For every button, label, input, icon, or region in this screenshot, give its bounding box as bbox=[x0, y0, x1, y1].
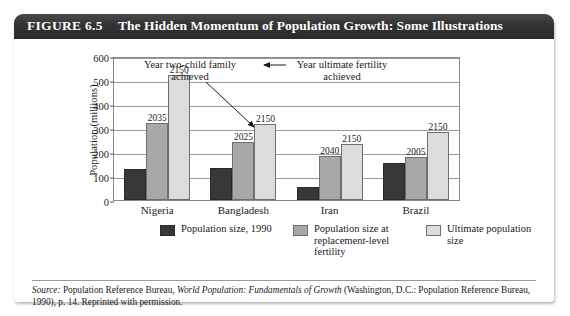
annotation-ultimate-fertility: Year ultimate fertility achieved bbox=[286, 59, 398, 83]
legend-swatch bbox=[293, 225, 308, 236]
bar[interactable]: 2035 bbox=[146, 123, 168, 200]
x-axis-label: Brazil bbox=[402, 204, 429, 216]
bar[interactable]: 2150 bbox=[341, 144, 363, 200]
legend-swatch bbox=[426, 225, 441, 236]
source-text-a: Population Reference Bureau, bbox=[61, 285, 177, 295]
x-axis-label: Bangladesh bbox=[218, 204, 269, 216]
bar-value-label: 2040 bbox=[320, 146, 339, 156]
bar-value-label: 2150 bbox=[256, 114, 275, 124]
figure-title: The Hidden Momentum of Population Growth… bbox=[118, 18, 503, 34]
y-tick-label: 0 bbox=[104, 197, 109, 208]
legend-label: Ultimate population size bbox=[447, 223, 539, 246]
bar[interactable] bbox=[124, 169, 146, 200]
source-italic-title: World Population: Fundamentals of Growth bbox=[177, 285, 342, 295]
bar-value-label: 2150 bbox=[342, 134, 361, 144]
bar[interactable]: 2150 bbox=[427, 132, 449, 200]
bar-value-label: 2150 bbox=[428, 122, 447, 132]
bar-value-label: 2035 bbox=[148, 113, 167, 123]
annotation-two-child-family: Year two-child family achieved bbox=[128, 59, 252, 83]
chart-y-axis-label: Population (millions) bbox=[88, 58, 104, 202]
figure-body: 0100200300400500600 Population (millions… bbox=[14, 39, 554, 302]
legend-item[interactable]: Population size at replacement-level fer… bbox=[293, 223, 406, 258]
bar-value-label: 2005 bbox=[406, 147, 425, 157]
figure-header: FIGURE 6.5 The Hidden Momentum of Popula… bbox=[14, 14, 554, 39]
y-tick-mark bbox=[110, 202, 114, 203]
bar[interactable]: 2040 bbox=[319, 156, 341, 200]
legend-label: Population size, 1990 bbox=[181, 223, 273, 235]
bar[interactable] bbox=[210, 168, 232, 200]
legend-item[interactable]: Population size, 1990 bbox=[160, 223, 273, 258]
bar[interactable] bbox=[297, 187, 319, 200]
chart-legend: Population size, 1990Population size at … bbox=[160, 223, 490, 258]
legend-label: Population size at replacement-level fer… bbox=[314, 223, 406, 258]
legend-item[interactable]: Ultimate population size bbox=[426, 223, 539, 258]
x-axis-label: Iran bbox=[321, 204, 339, 216]
bar[interactable]: 2150 bbox=[254, 124, 276, 200]
bar[interactable]: 2150 bbox=[168, 75, 190, 200]
source-note: Source: Population Reference Bureau, Wor… bbox=[32, 285, 540, 308]
bar[interactable] bbox=[383, 163, 405, 200]
bar[interactable]: 2005 bbox=[405, 157, 427, 200]
figure-number: FIGURE 6.5 bbox=[27, 18, 103, 34]
source-prefix: Source: bbox=[32, 285, 61, 295]
source-text-b: (Washington, D.C.: Population bbox=[342, 285, 459, 295]
source-divider bbox=[32, 280, 536, 281]
x-axis-label: Nigeria bbox=[141, 204, 174, 216]
bar-value-label: 2025 bbox=[234, 132, 253, 142]
bar[interactable]: 2025 bbox=[232, 142, 254, 200]
legend-swatch bbox=[160, 225, 175, 236]
figure-container: FIGURE 6.5 The Hidden Momentum of Popula… bbox=[14, 14, 554, 302]
